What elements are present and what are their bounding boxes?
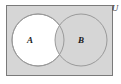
set-label-a: A bbox=[26, 35, 33, 45]
universe-label: U bbox=[112, 3, 119, 13]
venn-diagram-canvas: A B U bbox=[0, 0, 121, 84]
set-label-b: B bbox=[77, 35, 84, 45]
venn-diagram-figure: A B U bbox=[0, 0, 121, 84]
